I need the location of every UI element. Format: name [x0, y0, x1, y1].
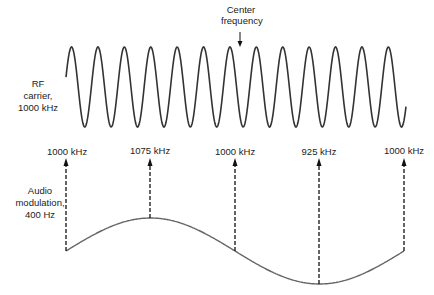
marker-label-2: 1000 kHz: [215, 146, 255, 157]
arrowhead-icon: [317, 158, 322, 166]
rf-carrier-label: RF carrier, 1000 kHz: [12, 78, 64, 114]
marker-label-0: 1000 kHz: [47, 146, 87, 157]
arrowhead-icon: [148, 158, 153, 166]
rf-carrier-wave: [66, 47, 406, 127]
frequency-marker-arrows: [64, 158, 407, 284]
arrowhead-icon: [402, 158, 407, 166]
rf-label-line3: 1000 kHz: [12, 102, 64, 114]
arrowhead-icon: [233, 158, 238, 166]
center-frequency-arrow: [238, 32, 243, 47]
fm-modulation-diagram: Center frequency RF carrier, 1000 kHz Au…: [0, 0, 434, 295]
marker-label-3: 925 kHz: [299, 146, 339, 157]
rf-label-line2: carrier,: [12, 90, 64, 102]
audio-label-line3: 400 Hz: [12, 209, 68, 221]
audio-label-line2: modulation,: [12, 197, 68, 209]
audio-modulation-label: Audio modulation, 400 Hz: [12, 185, 68, 221]
arrowhead-icon: [64, 158, 69, 166]
rf-label-line1: RF: [12, 78, 64, 90]
audio-label-line1: Audio: [12, 185, 68, 197]
center-frequency-line2: frequency: [221, 15, 261, 26]
center-frequency-line1: Center: [221, 4, 261, 15]
center-frequency-label: Center frequency: [221, 4, 261, 26]
marker-label-1: 1075 kHz: [130, 145, 170, 156]
marker-label-4: 1000 kHz: [383, 145, 425, 156]
